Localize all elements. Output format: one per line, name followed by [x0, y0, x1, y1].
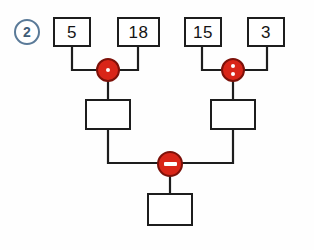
wire-midleft-to-subtract: [108, 130, 157, 163]
operand-box-15[interactable]: 15: [184, 17, 222, 47]
minus-bar-icon: [164, 162, 177, 166]
exercise-number-badge: 2: [14, 19, 40, 45]
operand-box-18[interactable]: 18: [117, 17, 160, 47]
operand-value-15: 15: [193, 24, 213, 41]
answer-box-final-result[interactable]: [147, 193, 193, 226]
operand-value-3: 3: [261, 24, 271, 41]
operand-value-5: 5: [67, 24, 77, 41]
wire-operand18-to-multiply: [118, 47, 138, 70]
divide-operator-node[interactable]: [221, 58, 245, 82]
operand-value-18: 18: [129, 24, 149, 41]
divide-dot-top-icon: [231, 64, 235, 68]
wire-operand5-to-multiply: [72, 47, 98, 70]
answer-box-intermediate-left[interactable]: [85, 99, 131, 130]
wire-midright-to-subtract: [182, 130, 233, 163]
multiply-dot-icon: [106, 68, 110, 72]
operand-box-3[interactable]: 3: [247, 17, 285, 47]
exercise-number-label: 2: [23, 25, 31, 39]
wire-operand3-to-divide: [242, 47, 267, 70]
multiply-operator-node[interactable]: [96, 58, 120, 82]
wire-operand15-to-divide: [202, 47, 222, 70]
operand-box-5[interactable]: 5: [53, 17, 91, 47]
subtract-operator-node[interactable]: [157, 151, 183, 177]
divide-dot-bottom-icon: [231, 72, 235, 76]
answer-box-intermediate-right[interactable]: [210, 99, 256, 130]
exercise-canvas: 2 5 18 15 3: [0, 0, 314, 250]
